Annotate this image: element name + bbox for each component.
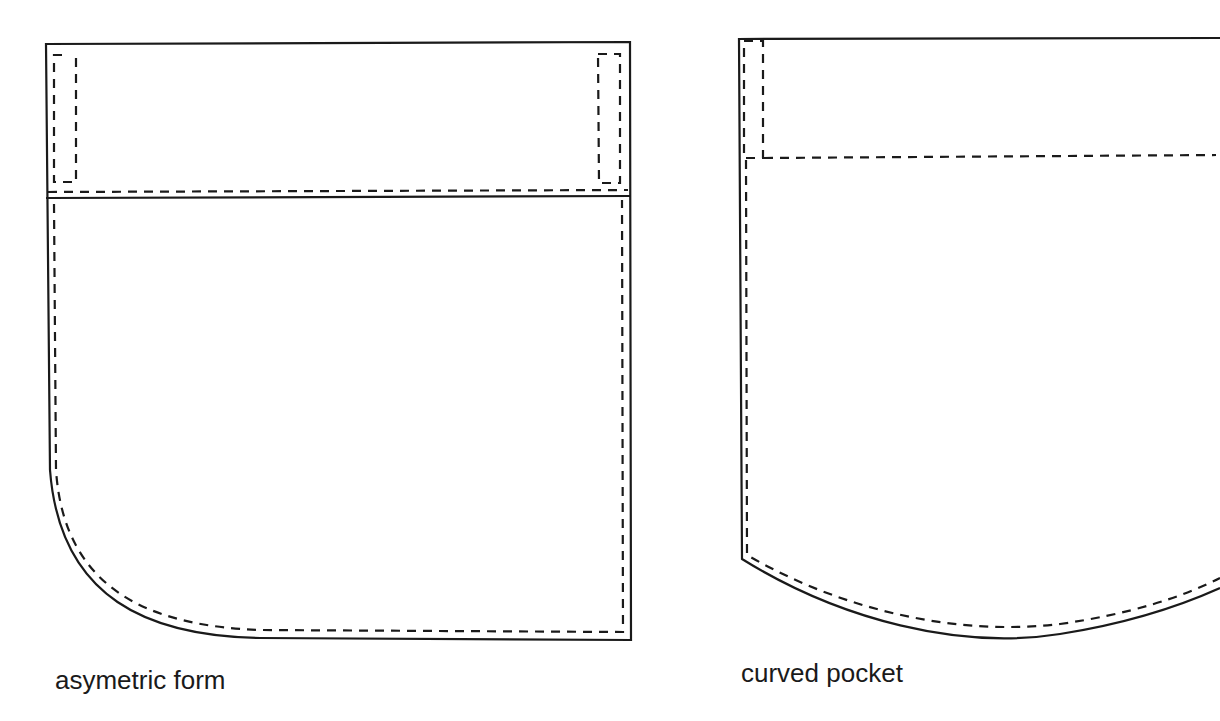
asymmetric-right-tab-dashed bbox=[598, 54, 620, 183]
asymmetric-left-tab-dashed bbox=[54, 55, 76, 182]
curved-pocket-label: curved pocket bbox=[741, 658, 903, 689]
curved-left-tab-dashed bbox=[744, 41, 763, 158]
asymmetric-band-seam bbox=[46, 196, 630, 198]
pocket-diagram-canvas bbox=[0, 0, 1220, 721]
asymmetric-band-dashed bbox=[48, 190, 628, 192]
asymmetric-form-label: asymetric form bbox=[55, 665, 225, 696]
curved-topstitch-dashed bbox=[746, 160, 1220, 627]
asymmetric-outer-outline bbox=[46, 42, 631, 640]
curved-pocket-figure bbox=[739, 38, 1220, 638]
curved-band-dashed bbox=[764, 155, 1216, 158]
asymmetric-pocket-figure bbox=[46, 42, 631, 640]
curved-outer-outline bbox=[739, 38, 1220, 638]
asymmetric-topstitch-dashed bbox=[54, 200, 623, 632]
